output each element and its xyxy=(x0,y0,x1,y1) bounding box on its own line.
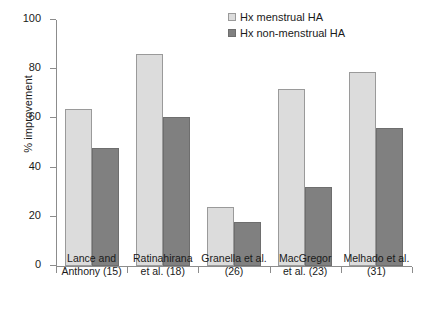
y-axis-tick-label: 80 xyxy=(29,61,41,73)
y-axis-tick: 100 xyxy=(50,19,56,20)
y-axis-tick-label: 40 xyxy=(29,160,41,172)
bar-group xyxy=(65,20,119,266)
x-axis-category-label: Melhado et al. (31) xyxy=(341,252,412,278)
legend-swatch-icon xyxy=(228,13,236,21)
plot-area: 020406080100 xyxy=(56,20,412,267)
y-axis-tick-label: 20 xyxy=(29,209,41,221)
legend-item: Hx non-menstrual HA xyxy=(228,25,345,41)
legend: Hx menstrual HAHx non-menstrual HA xyxy=(228,9,345,41)
cropped-caption-strip xyxy=(0,304,424,312)
y-axis-tick: 40 xyxy=(50,167,56,168)
bar-group xyxy=(278,20,332,266)
y-axis-tick-label: 100 xyxy=(23,12,41,24)
x-axis-category-label: Lance and Anthony (15) xyxy=(56,252,127,278)
x-axis-tick xyxy=(412,267,413,273)
bar xyxy=(92,148,119,266)
x-axis-category-label: MacGregor et al. (23) xyxy=(270,252,341,278)
bar xyxy=(376,128,403,266)
legend-label: Hx non-menstrual HA xyxy=(240,27,345,39)
bar-group xyxy=(349,20,403,266)
y-axis-tick-label: 60 xyxy=(29,110,41,122)
y-axis-tick-label: 0 xyxy=(35,258,41,270)
legend-label: Hx menstrual HA xyxy=(240,11,323,23)
bar xyxy=(278,89,305,266)
legend-item: Hx menstrual HA xyxy=(228,9,345,25)
bar-group xyxy=(136,20,190,266)
bar xyxy=(65,109,92,266)
bar xyxy=(136,54,163,266)
bar-chart-figure: % improvement 020406080100 Lance and Ant… xyxy=(0,0,424,312)
y-axis-line xyxy=(56,20,57,267)
legend-swatch-icon xyxy=(228,29,236,37)
bar-group xyxy=(207,20,261,266)
x-axis-category-label: Ratinahirana et al. (18) xyxy=(127,252,198,278)
y-axis-tick: 60 xyxy=(50,117,56,118)
bar xyxy=(163,117,190,266)
y-axis-tick: 20 xyxy=(50,216,56,217)
x-axis-category-label: Granella et al. (26) xyxy=(198,252,269,278)
bar xyxy=(349,72,376,266)
y-axis-tick: 80 xyxy=(50,68,56,69)
